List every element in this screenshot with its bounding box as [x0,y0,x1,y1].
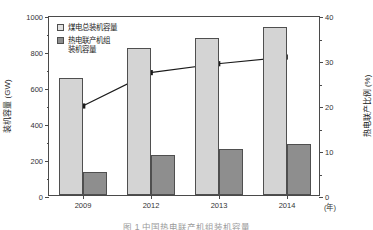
y-axis-right-tick [319,62,323,63]
bar-total-capacity [263,27,287,195]
x-axis-tick-label: 2012 [143,201,160,210]
y-axis-left-tick-label: 400 [30,121,43,130]
y-axis-right-tick-label: 10 [325,148,333,157]
ratio-line-path [83,57,286,106]
y-axis-left-tick [45,125,49,126]
y-axis-left-minor-tick [47,71,50,72]
y-axis-right-title: 热电联产比例 (%) [361,75,372,138]
y-axis-left-title: 装机容量 (GW) [1,79,12,132]
bar-chp-capacity [287,144,311,195]
y-axis-right-minor-tick [319,85,322,86]
y-axis-right-minor-tick [319,130,322,131]
y-axis-left-tick-label: 200 [30,157,43,166]
y-axis-left-tick-label: 1000 [26,13,43,22]
y-axis-left-minor-tick [47,143,50,144]
bar-chp-capacity [151,155,175,196]
bar-total-capacity [59,78,83,195]
y-axis-left-tick-label: 800 [30,49,43,58]
y-axis-right-tick-label: 30 [325,58,333,67]
x-axis-tick [83,195,84,199]
y-axis-right-tick-label: 40 [325,13,333,22]
x-axis-tick [151,195,152,199]
y-axis-right-tick-label: 20 [325,103,333,112]
x-axis-tick [219,195,220,199]
y-axis-left-tick [45,161,49,162]
x-axis-tick-label: 2009 [75,201,92,210]
y-axis-right-tick [319,107,323,108]
y-axis-right-minor-tick [319,40,322,41]
y-axis-left-minor-tick [47,35,50,36]
y-axis-right-minor-tick [319,175,322,176]
bar-chp-capacity [219,149,243,195]
y-axis-left-tick [45,197,49,198]
bar-total-capacity [195,38,219,196]
x-axis-tick [287,195,288,199]
x-axis-tick-label: 2013 [211,201,228,210]
x-axis-tick-label: 2014 [279,201,296,210]
y-axis-left-minor-tick [47,107,50,108]
y-axis-right-tick [319,152,323,153]
figure-caption: 图 1 中国热电联产机组装机容量 [0,220,373,230]
bar-chp-capacity [83,172,107,195]
plot-area: 煤电总装机容量 热电联产机组 装机容量 02004006008001000010… [48,16,320,196]
y-axis-right-tick [319,197,323,198]
chart-figure: 装机容量 (GW) 热电联产比例 (%) 煤电总装机容量 热电联产机组 装机容量… [0,0,373,230]
y-axis-left-tick [45,89,49,90]
y-axis-left-tick [45,17,49,18]
y-axis-left-tick-label: 0 [39,193,43,202]
y-axis-left-tick [45,53,49,54]
y-axis-left-tick-label: 600 [30,85,43,94]
y-axis-right-tick [319,17,323,18]
y-axis-left-minor-tick [47,179,50,180]
x-axis-unit-label: (年) [324,201,336,212]
bar-total-capacity [127,48,151,195]
